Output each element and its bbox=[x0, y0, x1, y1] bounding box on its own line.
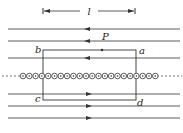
length-dimension: l bbox=[43, 6, 135, 17]
corner-a-label: a bbox=[139, 45, 145, 56]
arrow-right-icon bbox=[86, 92, 92, 96]
upper-field-lines bbox=[8, 27, 180, 60]
arrow-right-icon bbox=[86, 116, 92, 120]
corner-b-label: b bbox=[35, 44, 41, 55]
point-label-p: P bbox=[101, 31, 109, 42]
arrow-left-icon bbox=[84, 39, 90, 43]
arrow-right-icon bbox=[86, 104, 92, 108]
corner-c-label: c bbox=[35, 93, 41, 104]
length-label: l bbox=[87, 6, 90, 17]
current-sheet-row bbox=[2, 73, 182, 79]
arrow-left-icon bbox=[84, 56, 90, 60]
diagram-canvas: l P b a c d bbox=[0, 0, 183, 133]
lower-field-lines bbox=[8, 92, 180, 120]
arrow-left-icon bbox=[84, 27, 90, 31]
